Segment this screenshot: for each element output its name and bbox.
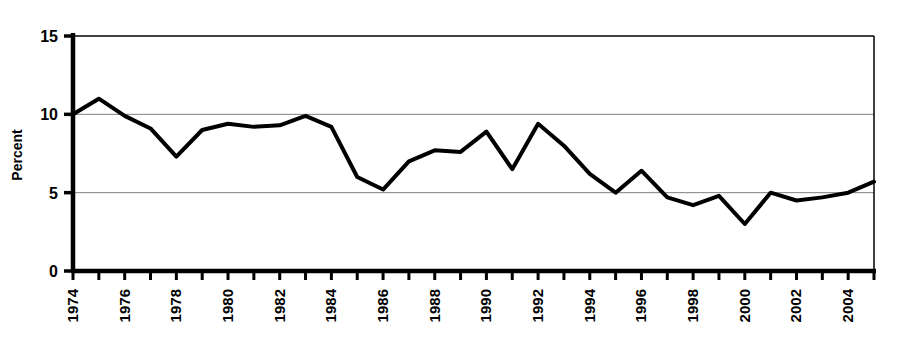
x-tick-label-1978: 1978 xyxy=(167,289,184,322)
x-tick-label-1996: 1996 xyxy=(632,289,649,322)
y-tick-label-0: 0 xyxy=(49,263,58,280)
chart-container: 051015 197419761978198019821984198619881… xyxy=(0,0,899,340)
y-tick-label-5: 5 xyxy=(49,185,58,202)
x-tick-label-1974: 1974 xyxy=(64,288,81,322)
x-tick-label-2004: 2004 xyxy=(839,288,856,322)
plot-background xyxy=(73,36,874,271)
x-tick-label-1988: 1988 xyxy=(426,289,443,322)
x-tick-label-1990: 1990 xyxy=(477,289,494,322)
y-axis-ticks: 051015 xyxy=(40,28,73,280)
y-tick-label-15: 15 xyxy=(40,28,58,45)
line-chart: 051015 197419761978198019821984198619881… xyxy=(0,0,899,340)
x-tick-label-1998: 1998 xyxy=(684,289,701,322)
x-tick-label-2002: 2002 xyxy=(787,289,804,322)
x-tick-label-2000: 2000 xyxy=(736,289,753,322)
x-axis-tick-labels: 1974197619781980198219841986198819901992… xyxy=(64,288,856,322)
x-tick-label-1984: 1984 xyxy=(322,288,339,322)
x-tick-label-1982: 1982 xyxy=(271,289,288,322)
y-tick-label-10: 10 xyxy=(40,106,58,123)
x-tick-label-1992: 1992 xyxy=(529,289,546,322)
x-tick-label-1986: 1986 xyxy=(374,289,391,322)
x-tick-label-1980: 1980 xyxy=(219,289,236,322)
y-axis-title: Percent xyxy=(9,129,25,181)
x-tick-label-1994: 1994 xyxy=(581,288,598,322)
x-tick-label-1976: 1976 xyxy=(116,289,133,322)
